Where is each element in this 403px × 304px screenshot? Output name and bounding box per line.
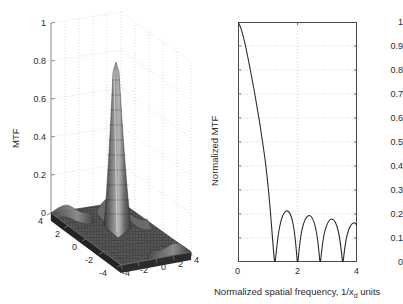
surface-plot-panel: 1 0.8 0.6 0.4 0.2 0 4 2 0 -2 -4 -4 -2 0 …	[0, 0, 200, 304]
line-plot-canvas	[238, 22, 357, 262]
surface-ytick-4: 4	[194, 256, 199, 265]
line-ytick-03: 0.3	[375, 186, 403, 195]
surface-xtick-4: 4	[38, 217, 43, 226]
line-x-axis-label: Normalized spatial frequency, 1/xd units	[214, 287, 380, 301]
surface-z-axis-label: MTF	[11, 128, 21, 148]
line-ytick-04: 0.4	[375, 162, 403, 171]
line-xtick-2: 2	[295, 267, 300, 276]
line-xtick-4: 4	[354, 267, 359, 276]
surface-ytick-neg2: -2	[140, 266, 148, 275]
line-plot-panel: 1 0.9 0.8 0.7 0.6 0.5 0.4 0.3 0.2 0.1 0 …	[200, 0, 403, 304]
x-axis-label-units: units	[358, 286, 381, 297]
surface-plot-canvas	[0, 0, 200, 304]
surface-ytick-2: 2	[178, 260, 183, 269]
surface-ytick-neg4: -4	[122, 269, 130, 278]
surface-z-axis	[51, 22, 55, 213]
line-ytick-09: 0.9	[375, 42, 403, 51]
surface-xtick-0: 0	[72, 243, 77, 252]
surface-ztick-02: 0.2	[13, 171, 46, 180]
surface-xtick-neg2: -2	[85, 256, 93, 265]
line-ytick-05: 0.5	[375, 138, 403, 147]
line-y-axis-label: Normalized MTF	[210, 116, 220, 186]
surface-xtick-2: 2	[55, 230, 60, 239]
line-ytick-07: 0.7	[375, 90, 403, 99]
line-ytick-06: 0.6	[375, 114, 403, 123]
line-ytick-01: 0.1	[375, 234, 403, 243]
line-ytick-0: 0	[375, 258, 403, 267]
surface-ztick-1: 1	[20, 19, 46, 28]
figure-root: 1 0.8 0.6 0.4 0.2 0 4 2 0 -2 -4 -4 -2 0 …	[0, 0, 403, 304]
line-ytick-02: 0.2	[375, 210, 403, 219]
surface-ytick-0: 0	[161, 263, 166, 272]
surface-ztick-08: 0.8	[13, 57, 46, 66]
line-xtick-0: 0	[235, 267, 240, 276]
line-ytick-08: 0.8	[375, 66, 403, 75]
x-axis-label-main: Normalized spatial frequency, 1/x	[214, 286, 354, 297]
surface-xtick-neg4: -4	[99, 269, 107, 278]
surface-ztick-06: 0.6	[13, 95, 46, 104]
line-ytick-1: 1	[375, 18, 403, 27]
